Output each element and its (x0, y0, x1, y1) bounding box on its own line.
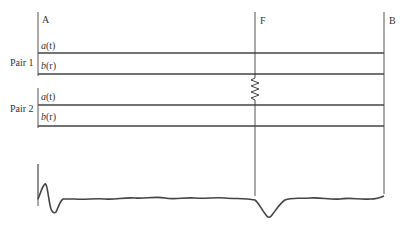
diagram-canvas (0, 0, 400, 226)
pair2-a-label: a(t) (41, 92, 55, 102)
pair2-label: Pair 2 (10, 104, 34, 114)
point-b-label: B (389, 16, 396, 26)
pair1-a-label: a(t) (41, 41, 55, 51)
pair2-b-label: b(r) (41, 112, 56, 122)
pair1-b-label: b(r) (41, 61, 56, 71)
point-f-label: F (260, 16, 266, 26)
pair1-label: Pair 1 (10, 58, 34, 68)
reflection-trace (38, 184, 384, 217)
point-a-label: A (42, 15, 49, 25)
